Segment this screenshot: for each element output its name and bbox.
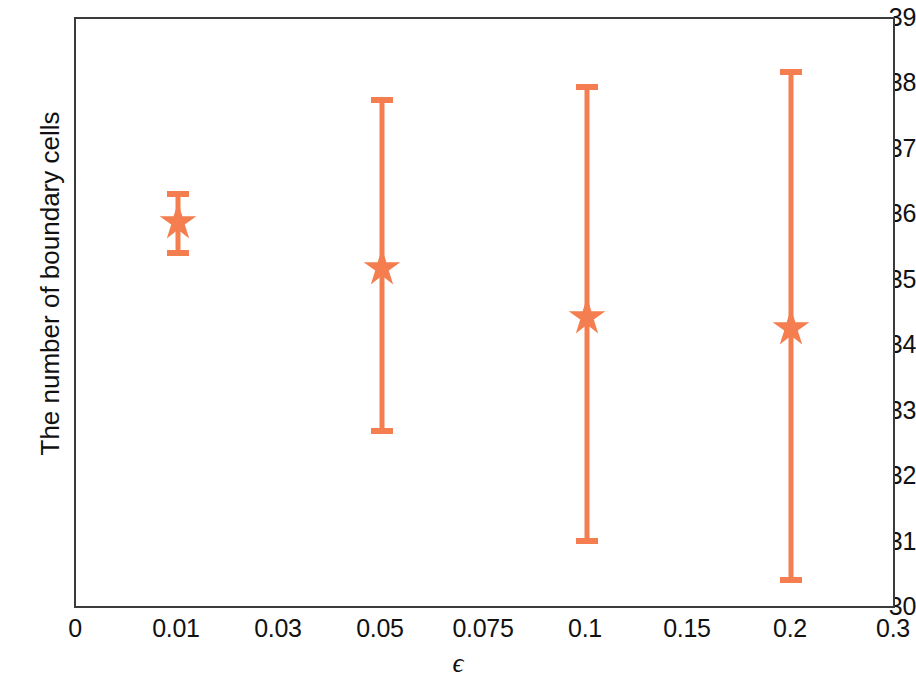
error-bar-cap-lower [167, 250, 189, 256]
error-bar-cap-upper [371, 97, 393, 103]
x-tick-label: 0.075 [452, 616, 513, 641]
error-bar-cap-lower [780, 577, 802, 583]
error-bar-cap-upper [167, 191, 189, 197]
error-bar-line [176, 191, 181, 256]
x-tick-label: 0.15 [663, 616, 710, 641]
x-tick-label: 0 [68, 616, 82, 641]
error-bar-cap-upper [576, 84, 598, 90]
error-bar-line [584, 84, 589, 544]
x-tick-label: 0.1 [568, 616, 602, 641]
y-axis-label: The number of boundary cells [35, 49, 66, 519]
x-tick-label: 0.05 [356, 616, 403, 641]
x-tick-label: 0.03 [254, 616, 301, 641]
error-bar-line [380, 97, 385, 434]
chart-figure: 39 38 37 36 35 34 33 32 31 30 0 0.01 0.0… [0, 0, 916, 677]
error-bar-cap-upper [780, 69, 802, 75]
error-bar-cap-lower [371, 428, 393, 434]
x-tick-label: 0.01 [152, 616, 199, 641]
error-bar-cap-lower [576, 538, 598, 544]
x-tick-label: 0.3 [876, 616, 910, 641]
x-tick-label: 0.2 [773, 616, 807, 641]
plot-area [74, 17, 895, 608]
x-axis-label: ϵ [0, 648, 916, 677]
error-bar-line [788, 69, 793, 583]
